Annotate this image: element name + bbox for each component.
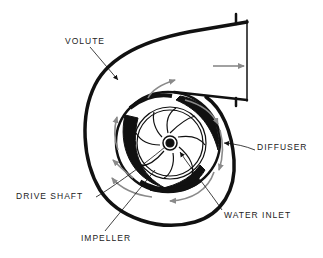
drive-shaft-label: DRIVE SHAFT [16,191,83,201]
volute-casing [85,14,247,225]
volute-label: VOLUTE [65,36,105,46]
diffuser-leader [224,143,255,150]
diffuser-label: DIFFUSER [257,142,308,152]
impeller [134,107,206,179]
impeller-label: IMPELLER [81,233,131,243]
water-inlet-label: WATER INLET [224,210,291,220]
pump-diagram: VOLUTE DIFFUSER DRIVE SHAFT WATER INLET … [0,0,323,258]
